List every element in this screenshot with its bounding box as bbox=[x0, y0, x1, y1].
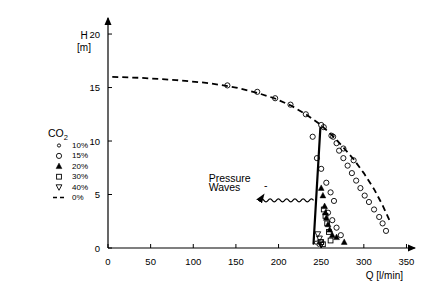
legend-label: 10% bbox=[72, 141, 88, 150]
data-point bbox=[362, 193, 367, 198]
data-point bbox=[328, 190, 333, 195]
x-tick-label: 0 bbox=[105, 256, 110, 267]
data-point bbox=[334, 225, 339, 230]
legend-item-20pct: 20% bbox=[56, 162, 88, 171]
data-point bbox=[371, 207, 376, 212]
pressure-wave-arrow bbox=[260, 199, 314, 202]
data-point bbox=[358, 185, 363, 190]
x-tick-label: 300 bbox=[356, 256, 372, 267]
data-point bbox=[303, 112, 308, 117]
data-point bbox=[328, 238, 333, 243]
x-tick-label: 150 bbox=[228, 256, 244, 267]
x-tick-label: 350 bbox=[399, 256, 415, 267]
legend-label: 0% bbox=[72, 193, 84, 202]
axis-ticks: 05010015020025030035005101520H[m]Q [l/mi… bbox=[77, 29, 414, 281]
legend-label: 15% bbox=[72, 151, 88, 160]
y-tick-label: 15 bbox=[89, 82, 100, 93]
legend-marker-filled-triangle-up bbox=[56, 163, 62, 169]
data-point bbox=[366, 199, 371, 204]
data-point bbox=[377, 214, 382, 219]
legend-label: 40% bbox=[72, 183, 88, 192]
series-15% bbox=[310, 125, 389, 238]
legend-marker-open-circle bbox=[56, 153, 61, 158]
x-tick-label: 200 bbox=[271, 256, 287, 267]
y-tick-label: 20 bbox=[89, 29, 100, 40]
data-point bbox=[345, 163, 350, 168]
legend-item-15pct: 15% bbox=[56, 151, 88, 160]
y-tick-label: 0 bbox=[95, 243, 100, 254]
data-point bbox=[322, 203, 328, 209]
x-axis-title: Q [l/min] bbox=[366, 270, 403, 281]
legend-item-30pct: 30% bbox=[57, 172, 88, 181]
data-point bbox=[337, 148, 342, 153]
data-point bbox=[330, 218, 335, 223]
data-point bbox=[383, 228, 388, 233]
series-40% bbox=[315, 232, 324, 248]
pressure-wave-boundary bbox=[314, 128, 321, 244]
annotation-text: Waves bbox=[209, 181, 241, 193]
legend-label: 30% bbox=[72, 172, 88, 181]
data-point bbox=[320, 192, 326, 198]
data-point bbox=[341, 156, 346, 161]
y-axis-title: H bbox=[80, 30, 87, 41]
chart-annotations: PressureWaves- bbox=[209, 172, 314, 202]
chart-canvas: 05010015020025030035005101520H[m]Q [l/mi… bbox=[0, 0, 428, 292]
legend-marker-small-open-circle bbox=[57, 144, 60, 147]
legend-item-40pct: 40% bbox=[56, 183, 88, 192]
chart-container: 05010015020025030035005101520H[m]Q [l/mi… bbox=[0, 0, 428, 292]
legend-item-10pct: 10% bbox=[57, 141, 88, 150]
annotation-text: - bbox=[264, 179, 268, 191]
curve-0-percent bbox=[112, 77, 389, 220]
x-tick-label: 50 bbox=[145, 256, 156, 267]
legend-marker-open-triangle-down bbox=[56, 185, 62, 191]
y-tick-label: 5 bbox=[95, 189, 100, 200]
x-tick-label: 100 bbox=[185, 256, 201, 267]
legend-label: 20% bbox=[72, 162, 88, 171]
legend-marker-open-square bbox=[57, 174, 62, 179]
data-point bbox=[331, 198, 336, 203]
data-point bbox=[310, 134, 315, 139]
data-point bbox=[349, 171, 354, 176]
data-point bbox=[319, 166, 324, 171]
data-point bbox=[354, 178, 359, 183]
data-point bbox=[341, 239, 347, 245]
y-tick-label: 10 bbox=[89, 136, 100, 147]
chart-legend: CO210%15%20%30%40%0% bbox=[48, 127, 88, 202]
y-axis-title-unit: [m] bbox=[77, 42, 91, 53]
series-0% bbox=[112, 77, 389, 220]
data-point bbox=[324, 180, 329, 185]
data-point bbox=[318, 185, 324, 191]
data-series-group bbox=[112, 77, 389, 248]
data-point bbox=[338, 233, 343, 238]
data-point bbox=[380, 221, 385, 226]
legend-title: CO2 bbox=[48, 127, 68, 142]
legend-item-0pct: 0% bbox=[53, 193, 84, 202]
x-tick-label: 250 bbox=[313, 256, 329, 267]
